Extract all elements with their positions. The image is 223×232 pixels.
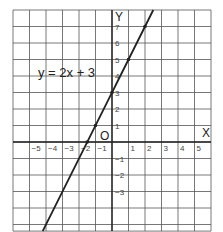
line-chart: −5−4−3−2−1123457654321−1−2−3 y = 2x + 3 … [0, 0, 223, 232]
data-point [94, 124, 98, 128]
y-tick-label: −2 [115, 171, 125, 180]
y-tick-label: −1 [115, 155, 125, 164]
y-tick-label: 2 [115, 105, 120, 114]
y-axis-label: Y [115, 10, 123, 24]
y-tick-label: 5 [115, 56, 120, 65]
y-tick-label: 6 [115, 39, 120, 48]
x-axis-label: X [202, 126, 210, 140]
y-tick-label: 1 [115, 122, 120, 131]
origin-label: O [100, 129, 109, 143]
x-tick-label: 3 [164, 144, 169, 153]
equation-label: y = 2x + 3 [38, 65, 95, 80]
x-tick-label: 1 [131, 144, 136, 153]
tick-labels: −5−4−3−2−1123457654321−1−2−3 [32, 23, 202, 197]
x-tick-label: −4 [48, 144, 58, 153]
x-tick-label: 2 [147, 144, 152, 153]
x-tick-label: −1 [98, 144, 108, 153]
data-point [85, 140, 89, 144]
y-tick-label: −3 [115, 188, 125, 197]
data-point [110, 91, 114, 95]
x-tick-label: −5 [32, 144, 42, 153]
x-tick-label: 4 [180, 144, 185, 153]
data-point [143, 25, 147, 29]
data-point [127, 58, 131, 62]
y-tick-label: 3 [115, 89, 120, 98]
x-tick-label: 5 [197, 144, 202, 153]
x-tick-label: −3 [65, 144, 75, 153]
